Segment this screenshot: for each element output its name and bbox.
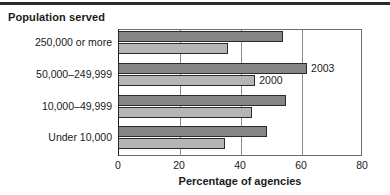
x-axis-title: Percentage of agencies bbox=[118, 175, 362, 187]
bar-2000 bbox=[118, 107, 252, 118]
category-label: Under 10,000 bbox=[0, 131, 112, 143]
x-tick-label-0: 0 bbox=[103, 159, 133, 171]
bar-2003 bbox=[118, 31, 283, 42]
population-served-heading: Population served bbox=[8, 11, 105, 23]
category-label: 50,000–249,999 bbox=[0, 68, 112, 80]
category-label: 10,000–49,999 bbox=[0, 100, 112, 112]
bar-2000 bbox=[118, 43, 228, 54]
x-tick-label-20: 20 bbox=[164, 159, 194, 171]
bar-2003 bbox=[118, 126, 267, 137]
bar-group bbox=[118, 95, 362, 121]
series-annotation-2003: 2003 bbox=[311, 62, 334, 74]
bar-group bbox=[118, 31, 362, 57]
top-divider-rule bbox=[0, 2, 390, 5]
bar-group bbox=[118, 126, 362, 152]
bar-2003 bbox=[118, 63, 307, 74]
x-tick-label-40: 40 bbox=[225, 159, 255, 171]
x-tick-label-80: 80 bbox=[347, 159, 377, 171]
bar-2000 bbox=[118, 75, 255, 86]
chart-figure: Population served Percentage of agencies… bbox=[0, 0, 390, 195]
bar-2000 bbox=[118, 138, 225, 149]
bar-2003 bbox=[118, 95, 286, 106]
series-annotation-2000: 2000 bbox=[259, 74, 282, 86]
category-label: 250,000 or more bbox=[0, 36, 112, 48]
x-tick-label-60: 60 bbox=[286, 159, 316, 171]
